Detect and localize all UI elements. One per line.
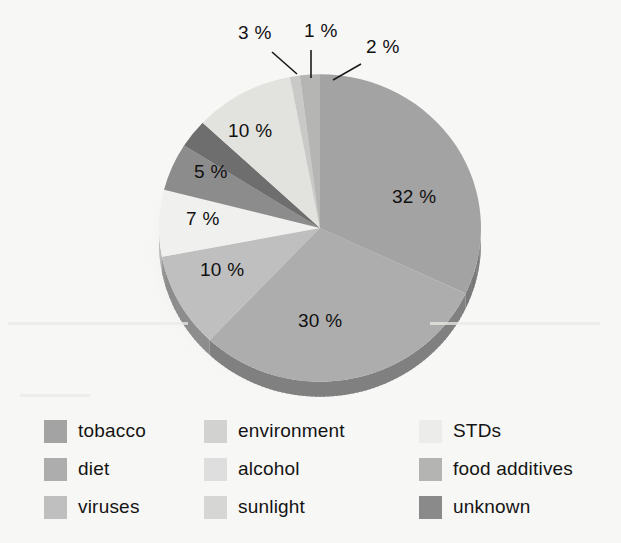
legend-label-tobacco: tobacco [78,420,146,442]
legend-item-STDs[interactable]: STDs [419,412,584,450]
slice-label-environment: 5 % [194,161,228,183]
legend-label-STDs: STDs [453,420,501,442]
legend-swatch-unknown [419,496,442,519]
legend-swatch-environment [204,420,227,443]
legend-label-diet: diet [78,458,109,480]
slice-label-diet: 30 % [298,310,343,332]
legend-label-viruses: viruses [78,496,140,518]
legend-item-diet[interactable]: diet [44,450,204,488]
scan-artifact [8,322,188,325]
legend-swatch-alcohol [204,458,227,481]
legend-item-unknown[interactable]: unknown [419,488,584,526]
slice-label-viruses: 10 % [200,259,245,281]
chart-canvas: 32 %30 %10 %7 %5 %10 % 3 %1 %2 % tobacco… [0,0,621,543]
legend-swatch-viruses [44,496,67,519]
chart-legend: tobaccoenvironmentSTDsdietalcoholfood ad… [44,412,584,526]
legend-label-environment: environment [238,420,345,442]
legend-item-environment[interactable]: environment [204,412,419,450]
callout-2pct-text: 2 % [366,36,400,58]
legend-item-sunlight[interactable]: sunlight [204,488,419,526]
scan-artifact [20,394,90,397]
callout-3pct-text: 3 % [238,22,272,44]
pie-chart-graphic [0,0,621,400]
slice-label-tobacco: 32 % [392,186,437,208]
legend-label-sunlight: sunlight [238,496,305,518]
legend-label-unknown: unknown [453,496,530,518]
legend-label-food-additives: food additives [453,458,573,480]
legend-swatch-tobacco [44,420,67,443]
legend-swatch-STDs [419,420,442,443]
slice-label-STDs: 10 % [228,120,273,142]
legend-item-tobacco[interactable]: tobacco [44,412,204,450]
callout-3pct-line [272,52,297,74]
legend-item-viruses[interactable]: viruses [44,488,204,526]
slice-label-alcohol: 7 % [186,208,220,230]
legend-swatch-diet [44,458,67,481]
legend-item-food-additives[interactable]: food additives [419,450,584,488]
pie-chart-area: 32 %30 %10 %7 %5 %10 % 3 %1 %2 % [0,0,621,400]
legend-swatch-food-additives [419,458,442,481]
legend-item-alcohol[interactable]: alcohol [204,450,419,488]
legend-swatch-sunlight [204,496,227,519]
scan-artifact [430,322,600,325]
legend-label-alcohol: alcohol [238,458,300,480]
callout-1pct-text: 1 % [304,20,338,42]
